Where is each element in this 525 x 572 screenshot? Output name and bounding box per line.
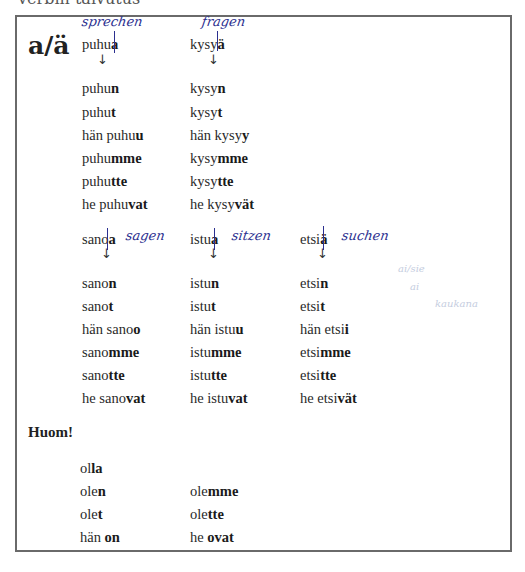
form: he puhuvat: [82, 196, 148, 212]
form: olette: [190, 506, 224, 522]
annotation-puhua: sprechen: [81, 14, 144, 29]
huom-label: Huom!: [28, 424, 73, 441]
form: he ovat: [190, 529, 234, 545]
form: he kysyvät: [190, 196, 254, 212]
form: sanomme: [82, 344, 139, 360]
form: puhutte: [82, 173, 127, 189]
faint-note: ai: [410, 280, 419, 293]
pen-mark: [114, 31, 115, 53]
infinitive-kysya: kysyä: [190, 36, 225, 52]
form: etsitte: [300, 367, 336, 383]
form: puhun: [82, 80, 119, 96]
infinitive-sanoa: sanoa: [82, 231, 116, 247]
pen-mark: [217, 31, 218, 51]
faint-note: ai/sie: [398, 262, 425, 275]
form: he istuvat: [190, 390, 248, 406]
form: puhumme: [82, 150, 142, 166]
infinitive-olla: olla: [80, 460, 103, 476]
cut-off-title: verbin taivutus: [18, 0, 140, 8]
arrow-down-icon: ↓: [208, 246, 219, 261]
arrow-down-icon: ↓: [317, 246, 328, 261]
form: kysytte: [190, 173, 234, 189]
form: kysyt: [190, 104, 222, 120]
form: olet: [80, 506, 103, 522]
form: hän kysyy: [190, 127, 249, 143]
form: hän istuu: [190, 321, 244, 337]
arrow-down-icon: ↓: [97, 52, 108, 67]
form: olen: [80, 483, 106, 499]
annotation-etsia: suchen: [341, 228, 390, 243]
annotation-istua: sitzen: [231, 228, 272, 243]
form: istumme: [190, 344, 242, 360]
form: hän puhuu: [82, 127, 144, 143]
faint-note: kaukana: [435, 297, 478, 310]
form: he sanovat: [82, 390, 145, 406]
arrow-down-icon: ↓: [101, 246, 112, 261]
form: hän on: [80, 529, 120, 545]
section-heading: a/ä: [28, 31, 70, 60]
form: hän sanoo: [82, 321, 140, 337]
form: etsimme: [300, 344, 351, 360]
form: kysymme: [190, 150, 248, 166]
form: etsit: [300, 298, 325, 314]
form: he etsivät: [300, 390, 357, 406]
form: hän etsii: [300, 321, 349, 337]
annotation-sanoa: sagen: [125, 228, 166, 243]
form: sanotte: [82, 367, 125, 383]
form: puhut: [82, 104, 116, 120]
annotation-kysya: fragen: [201, 14, 246, 29]
form: istutte: [190, 367, 227, 383]
form: sanot: [82, 298, 113, 314]
form: kysyn: [190, 80, 225, 96]
form: istun: [190, 275, 219, 291]
form: olemme: [190, 483, 238, 499]
infinitive-puhua: puhua: [82, 36, 118, 52]
form: istut: [190, 298, 216, 314]
arrow-down-icon: ↓: [208, 52, 219, 67]
form: etsin: [300, 275, 328, 291]
form: sanon: [82, 275, 117, 291]
